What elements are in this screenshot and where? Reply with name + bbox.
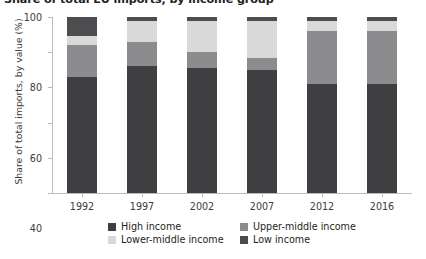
y-tick-mark: 60	[48, 87, 52, 88]
y-axis-title: Share of total imports, by value (%)	[13, 12, 24, 192]
bar-segment[interactable]	[307, 21, 337, 32]
x-tick-label-1992: 1992	[70, 201, 94, 212]
bar-segment[interactable]	[67, 45, 97, 77]
bar-segment[interactable]	[247, 21, 277, 58]
chart-title: Share of total EU imports, by income gro…	[4, 0, 422, 6]
legend-label: Upper-middle income	[253, 221, 356, 232]
legend-item-high-income[interactable]: High income	[108, 221, 240, 232]
bar-segment[interactable]	[127, 21, 157, 42]
legend-label: Low income	[253, 234, 310, 245]
x-tick-label-1997: 1997	[130, 201, 154, 212]
legend-swatch-low-income	[240, 236, 248, 244]
bar-segment[interactable]	[247, 70, 277, 193]
y-tick-label: 60	[30, 152, 42, 163]
chart-legend: High incomeUpper-middle incomeLower-midd…	[108, 221, 408, 247]
y-tick-label: 100	[24, 12, 42, 23]
legend-swatch-upper-middle-income	[240, 223, 248, 231]
bar-stack-2016[interactable]	[367, 17, 397, 193]
legend-row: High incomeUpper-middle income	[108, 221, 408, 232]
x-tick-label-2007: 2007	[250, 201, 274, 212]
bar-segment[interactable]	[247, 58, 277, 70]
y-tick-label: 80	[30, 82, 42, 93]
bar-segment[interactable]	[187, 21, 217, 53]
y-tick-mark: 40	[48, 123, 52, 124]
plot-area: 020406080100 199219972002200720122016	[52, 17, 412, 193]
bar-segment[interactable]	[127, 66, 157, 193]
legend-label: High income	[121, 221, 181, 232]
bar-stack-1997[interactable]	[127, 17, 157, 193]
chart-figure: Share of total EU imports, by income gro…	[0, 0, 426, 259]
x-tick-mark	[142, 193, 143, 197]
x-tick-mark	[262, 193, 263, 197]
y-tick-mark: 0	[48, 193, 52, 194]
y-tick-mark: 20	[48, 158, 52, 159]
legend-row: Lower-middle incomeLow income	[108, 234, 408, 245]
x-axis-line	[52, 193, 412, 194]
bar-stack-1992[interactable]	[67, 17, 97, 193]
legend-item-lower-middle-income[interactable]: Lower-middle income	[108, 234, 240, 245]
bar-segment[interactable]	[127, 42, 157, 67]
bar-segment[interactable]	[307, 31, 337, 84]
y-tick-mark: 100	[48, 17, 52, 18]
y-tick-mark: 80	[48, 52, 52, 53]
legend-label: Lower-middle income	[121, 234, 224, 245]
y-tick-label: 40	[30, 223, 42, 234]
bar-segment[interactable]	[367, 21, 397, 32]
legend-item-low-income[interactable]: Low income	[240, 234, 310, 245]
bar-segment[interactable]	[67, 17, 97, 36]
bar-segment[interactable]	[367, 84, 397, 193]
x-tick-label-2012: 2012	[310, 201, 334, 212]
bar-stack-2012[interactable]	[307, 17, 337, 193]
bar-stack-2002[interactable]	[187, 17, 217, 193]
bar-stack-2007[interactable]	[247, 17, 277, 193]
y-axis-line	[52, 17, 53, 194]
x-tick-mark	[322, 193, 323, 197]
legend-item-upper-middle-income[interactable]: Upper-middle income	[240, 221, 356, 232]
bar-segment[interactable]	[367, 31, 397, 84]
legend-swatch-high-income	[108, 223, 116, 231]
bar-segment[interactable]	[187, 68, 217, 193]
x-tick-label-2002: 2002	[190, 201, 214, 212]
bar-segment[interactable]	[67, 36, 97, 45]
bar-segment[interactable]	[307, 84, 337, 193]
bar-segment[interactable]	[187, 52, 217, 68]
x-tick-mark	[382, 193, 383, 197]
x-tick-mark	[202, 193, 203, 197]
x-tick-label-2016: 2016	[370, 201, 394, 212]
legend-swatch-lower-middle-income	[108, 236, 116, 244]
bar-segment[interactable]	[67, 77, 97, 193]
x-tick-mark	[82, 193, 83, 197]
